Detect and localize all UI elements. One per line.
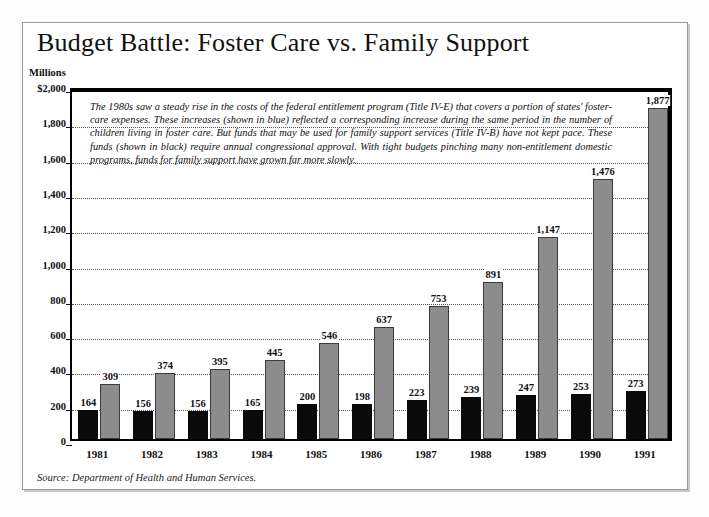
y-axis-tick-label: 1,800 [42,118,66,129]
y-axis-tick-mark [66,304,72,305]
bar-family-support-1984 [243,410,263,439]
bar-label-foster-care-1985: 546 [320,330,338,341]
bar-foster-care-1989 [538,237,558,439]
bar-label-family-support-1988: 239 [463,384,481,395]
page-canvas: Budget Battle: Foster Care vs. Family Su… [0,0,709,517]
chart-caption: The 1980s saw a steady rise in the costs… [90,100,612,166]
bar-label-family-support-1985: 200 [298,391,316,402]
bar-family-support-1990 [571,394,591,439]
y-axis-tick-mark [66,269,72,270]
y-axis-tick-mark [66,163,72,164]
y-axis-tick-mark [66,374,72,375]
y-axis-tick-mark [66,410,72,411]
gridline [72,304,668,305]
bar-label-foster-care-1982: 374 [156,360,174,371]
bar-label-family-support-1989: 247 [517,382,535,393]
bar-label-family-support-1991: 273 [627,378,645,389]
y-axis-tick-label: 1,200 [42,224,66,235]
y-axis-tick-label: $2,000 [37,83,66,94]
bar-family-support-1989 [516,395,536,439]
gridline [72,198,668,199]
y-axis-unit-label: Millions [29,67,66,78]
x-axis-tick-label-1991: 1991 [634,448,656,460]
bar-family-support-1987 [407,400,427,439]
x-axis-tick-label-1984: 1984 [251,448,273,460]
gridline [72,269,668,270]
y-axis-tick-mark [66,445,72,446]
bar-label-foster-care-1986: 637 [375,314,393,325]
x-axis-tick-label-1981: 1981 [86,448,108,460]
x-axis-tick-label-1987: 1987 [415,448,437,460]
bar-foster-care-1986 [374,327,394,439]
y-axis-tick-label: 800 [50,294,66,305]
bar-family-support-1986 [352,404,372,439]
y-axis-tick-label: 200 [50,400,66,411]
y-axis-tick-mark [66,233,72,234]
y-axis-tick-mark [66,127,72,128]
source-note: Source: Department of Health and Human S… [37,472,256,483]
bar-label-foster-care-1984: 445 [266,347,284,358]
bar-label-foster-care-1991: 1,877 [645,95,671,106]
y-axis-tick-mark [66,92,72,93]
y-axis-tick-label: 1,400 [42,188,66,199]
x-axis-tick-label-1986: 1986 [360,448,382,460]
plot-area: $2,0001,8001,6001,4001,2001,000800600400… [70,88,672,463]
bar-label-family-support-1986: 198 [353,391,371,402]
gridline [72,339,668,340]
bar-label-foster-care-1988: 891 [485,269,503,280]
x-axis-tick-label-1982: 1982 [141,448,163,460]
bar-label-foster-care-1989: 1,147 [535,224,561,235]
y-axis-tick-label: 1,000 [42,259,66,270]
x-axis-tick-label-1989: 1989 [524,448,546,460]
gridline [72,233,668,234]
y-axis-tick-label: 400 [50,365,66,376]
y-axis-tick-mark [66,198,72,199]
bar-label-family-support-1982: 156 [134,398,152,409]
bar-label-foster-care-1990: 1,476 [590,166,616,177]
bar-foster-care-1982 [155,373,175,439]
bar-foster-care-1987 [429,306,449,439]
bar-foster-care-1985 [319,343,339,439]
bar-label-family-support-1984: 165 [244,397,262,408]
x-axis-tick-label-1990: 1990 [579,448,601,460]
bar-foster-care-1988 [483,282,503,439]
bar-foster-care-1991 [648,108,668,439]
x-axis-tick-label-1985: 1985 [305,448,327,460]
bar-label-family-support-1983: 156 [189,398,207,409]
bar-label-foster-care-1987: 753 [430,293,448,304]
y-axis-tick-label: 600 [50,330,66,341]
bar-family-support-1985 [297,404,317,439]
plot-box: 1643091563741563951654452005461986372237… [70,88,672,441]
bar-foster-care-1983 [210,369,230,439]
bar-family-support-1983 [188,411,208,439]
y-axis-tick-labels: $2,0001,8001,6001,4001,2001,000800600400… [26,88,66,441]
page-title: Budget Battle: Foster Care vs. Family Su… [37,28,529,58]
bar-foster-care-1984 [265,360,285,439]
bar-label-foster-care-1981: 309 [101,371,119,382]
bar-foster-care-1990 [593,179,613,440]
bar-foster-care-1981 [100,384,120,439]
chart-figure-frame: Budget Battle: Foster Care vs. Family Su… [22,22,688,490]
bar-family-support-1988 [461,397,481,439]
bar-label-family-support-1990: 253 [572,381,590,392]
bar-label-family-support-1981: 164 [79,397,97,408]
y-axis-tick-label: 1,600 [42,153,66,164]
x-axis-tick-label-1983: 1983 [196,448,218,460]
bar-family-support-1981 [78,410,98,439]
bar-family-support-1982 [133,411,153,439]
y-axis-tick-mark [66,339,72,340]
bar-family-support-1991 [626,391,646,439]
bar-label-foster-care-1983: 395 [211,356,229,367]
x-axis-tick-label-1988: 1988 [469,448,491,460]
bar-label-family-support-1987: 223 [408,387,426,398]
